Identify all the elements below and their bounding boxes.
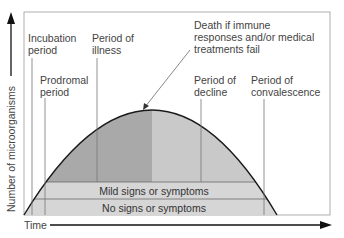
mild-symptoms-label: Mild signs or symptoms: [99, 185, 209, 197]
no-symptoms-label: No signs or symptoms: [102, 202, 206, 214]
y-axis-label: Number of microorganisms: [5, 86, 17, 212]
x-axis-arrow-icon: [320, 221, 332, 229]
disease-stages-diagram: Incubationperiod Prodromalperiod Period …: [0, 0, 344, 238]
x-axis-label: Time: [24, 219, 47, 231]
y-axis-arrow-icon: [7, 12, 15, 24]
